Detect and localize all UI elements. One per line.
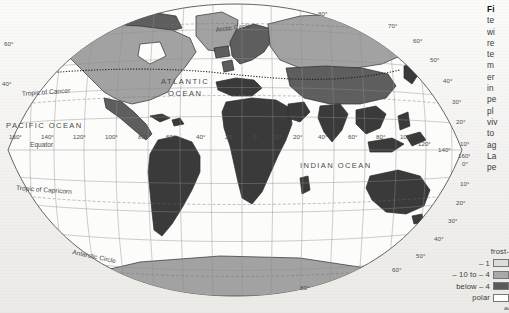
legend-color-swatch	[493, 259, 509, 267]
latitude-label: 20°	[456, 118, 466, 125]
latitude-label: 60°	[4, 40, 14, 47]
legend-color-swatch	[493, 271, 509, 279]
caption-lead-line: Fi	[487, 4, 509, 15]
longitude-label: 10°	[272, 133, 282, 140]
legend-row: frost-	[408, 246, 509, 258]
longitude-label: 80°	[376, 133, 386, 140]
latitude-label: 10°	[460, 140, 470, 147]
latitude-label: 60°	[413, 37, 423, 44]
legend-row: – 10 to – 4	[408, 269, 509, 281]
caption-line: viv	[487, 117, 509, 128]
landmass-northern-asia	[268, 14, 408, 70]
caption-line: pe	[487, 162, 509, 173]
world-map-figure: ATLANTICOCEANPACIFIC OCEANINDIAN OCEAN A…	[0, 0, 470, 300]
latitude-label: 40°	[434, 235, 444, 242]
longitude-label: 140°	[438, 146, 451, 153]
caption-line: m	[487, 60, 509, 71]
legend-label: below – 4	[456, 282, 490, 291]
latitude-label: 40°	[443, 77, 453, 84]
world-map-svg: ATLANTICOCEANPACIFIC OCEANINDIAN OCEAN A…	[0, 0, 470, 300]
longitude-label: 140°	[41, 133, 54, 140]
latitude-label: 30°	[448, 217, 458, 224]
longitude-label: 60°	[348, 133, 358, 140]
latitude-label: 20°	[456, 199, 466, 206]
longitude-label: 120°	[418, 140, 431, 147]
map-legend: frost-– 1– 10 to – 4below – 4polar	[408, 246, 509, 310]
latitude-labels-left: 60°40°	[2, 40, 14, 87]
legend-color-swatch	[493, 282, 509, 290]
legend-label: – 1	[479, 259, 490, 268]
latitude-label: 60°	[392, 266, 402, 273]
longitude-label: 160°	[458, 152, 470, 159]
latitude-label: 70°	[388, 22, 398, 29]
longitude-label: 20°	[225, 133, 235, 140]
legend-row: – 1	[408, 258, 509, 270]
latitude-label: 80°	[318, 10, 328, 17]
ocean-label: OCEAN	[168, 89, 203, 98]
caption-line: ag	[487, 140, 509, 151]
longitude-label: 20°	[293, 133, 303, 140]
longitude-label: 40°	[318, 133, 328, 140]
caption-line: wi	[487, 27, 509, 38]
caption-line: to	[487, 128, 509, 139]
ocean-label: ATLANTIC	[161, 77, 209, 86]
legend-label: polar	[472, 293, 490, 302]
reference-line-label: Equator	[30, 141, 54, 149]
caption-line: pl	[487, 106, 509, 117]
latitude-label: 0°	[462, 160, 468, 167]
longitude-label: 0°	[253, 133, 259, 140]
caption-line: pe	[487, 94, 509, 105]
longitude-label: 60°	[166, 133, 176, 140]
latitude-label: 10°	[460, 180, 470, 187]
ocean-label: INDIAN OCEAN	[300, 161, 372, 170]
longitude-label: 120°	[73, 133, 86, 140]
longitude-label: 80°	[138, 133, 148, 140]
longitude-label: 40°	[196, 133, 206, 140]
ocean-label: PACIFIC OCEAN	[6, 121, 83, 130]
legend-color-swatch	[493, 294, 509, 302]
legend-dot-marker	[504, 307, 509, 310]
latitude-label: 80°	[300, 284, 310, 291]
latitude-label: 40°	[2, 80, 12, 87]
caption-line: te	[487, 15, 509, 26]
figure-caption-column: FitewiretemerinpeplvivtoagLape	[487, 4, 509, 229]
caption-line: er	[487, 72, 509, 83]
caption-line: in	[487, 83, 509, 94]
legend-label: – 10 to – 4	[452, 270, 490, 279]
longitude-label: 100°	[105, 133, 118, 140]
latitude-label: 30°	[452, 98, 462, 105]
caption-line: re	[487, 38, 509, 49]
legend-row: polar	[408, 292, 509, 304]
longitude-label: 160°	[9, 133, 22, 140]
longitude-label: 100°	[400, 133, 413, 140]
caption-line: La	[487, 151, 509, 162]
legend-row	[408, 304, 509, 311]
latitude-label: 50°	[430, 56, 440, 63]
legend-row: below – 4	[408, 281, 509, 293]
caption-line: te	[487, 49, 509, 60]
legend-label: frost-	[491, 247, 509, 256]
